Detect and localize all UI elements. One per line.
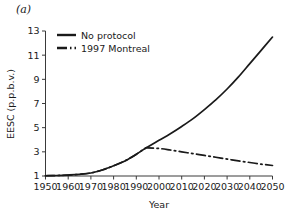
y-tick-label: 7 — [33, 98, 39, 109]
y-tick-label: 1 — [33, 170, 39, 181]
y-tick-label: 3 — [33, 146, 39, 157]
series-line-1997-montreal — [46, 148, 273, 176]
y-tick-label: 5 — [33, 122, 39, 133]
y-axis-ticks — [42, 31, 46, 176]
figure-panel-a: (a) 135791113 19501960197019801990200020… — [0, 0, 291, 215]
x-tick-label: 1990 — [124, 181, 148, 192]
x-tick-label: 2010 — [170, 181, 194, 192]
x-tick-label: 1970 — [79, 181, 103, 192]
legend-label-1997-montreal: 1997 Montreal — [81, 43, 150, 54]
x-tick-label: 2030 — [215, 181, 239, 192]
x-tick-label: 1960 — [56, 181, 80, 192]
y-tick-label: 9 — [33, 74, 39, 85]
series-line-no-protocol — [46, 37, 273, 176]
x-tick-label: 1980 — [102, 181, 126, 192]
y-tick-label: 13 — [27, 25, 39, 36]
x-tick-label: 2020 — [192, 181, 216, 192]
y-axis-tick-labels: 135791113 — [27, 25, 39, 181]
x-axis-ticks — [46, 176, 273, 180]
y-tick-label: 11 — [27, 50, 39, 61]
x-tick-label: 2050 — [260, 181, 284, 192]
x-tick-label: 2000 — [147, 181, 171, 192]
chart-legend: No protocol 1997 Montreal — [57, 30, 150, 54]
chart-canvas: 135791113 195019601970198019902000201020… — [0, 0, 291, 215]
x-tick-label: 1950 — [33, 181, 57, 192]
x-tick-label: 2040 — [238, 181, 262, 192]
y-axis-title: EESC (p.p.b.v.) — [5, 69, 16, 139]
x-axis-tick-labels: 1950196019701980199020002010202020302040… — [33, 181, 284, 192]
axes-group — [46, 31, 273, 176]
series-group — [46, 37, 273, 176]
x-axis-title: Year — [148, 199, 169, 210]
legend-label-no-protocol: No protocol — [81, 30, 136, 41]
